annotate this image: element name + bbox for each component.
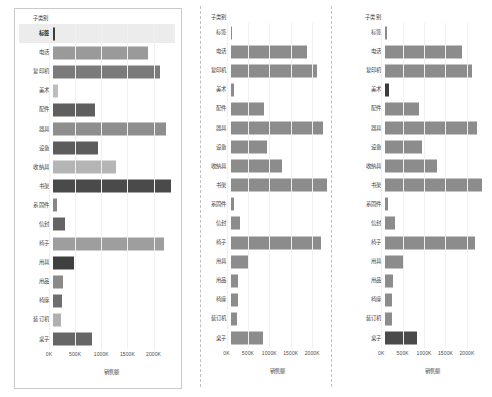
bar[interactable] — [385, 274, 393, 287]
bar-row[interactable]: 配件 — [19, 100, 175, 119]
bar-row[interactable]: 电话 — [351, 42, 484, 61]
bar-row[interactable]: 美术 — [197, 80, 330, 99]
category-label[interactable]: 装订机 — [19, 316, 53, 323]
bar[interactable] — [53, 103, 95, 116]
bar-row[interactable]: 用品 — [197, 271, 330, 290]
bar[interactable] — [53, 199, 57, 212]
category-label[interactable]: 用品 — [351, 277, 385, 284]
bar[interactable] — [231, 236, 321, 249]
bar-row[interactable]: 书架 — [351, 176, 484, 195]
bar[interactable] — [385, 160, 436, 173]
bar-row[interactable]: 收纳具 — [197, 157, 330, 176]
bar-row[interactable]: 椅子 — [197, 233, 330, 252]
bar[interactable] — [385, 236, 475, 249]
bar-row[interactable]: 桌子 — [197, 329, 330, 348]
category-label[interactable]: 电话 — [351, 48, 385, 55]
bar[interactable] — [53, 333, 92, 346]
chart-panel-3[interactable]: 子类别 标签电话复印机美术配件器具设备收纳具书架系固件信封椅子用具用品椅座装订机… — [347, 8, 490, 389]
bar-row[interactable]: 配件 — [351, 99, 484, 118]
bar[interactable] — [385, 217, 394, 230]
bar[interactable] — [231, 141, 268, 154]
category-label[interactable]: 桌子 — [197, 335, 231, 342]
bar-row[interactable]: 电话 — [197, 42, 330, 61]
category-label[interactable]: 复印机 — [197, 67, 231, 74]
category-label[interactable]: 标签 — [19, 30, 53, 37]
bar[interactable] — [231, 102, 265, 115]
category-label[interactable]: 用具 — [19, 259, 53, 266]
chart-panel-2[interactable]: 子类别 标签电话复印机美术配件器具设备收纳具书架系固件信封椅子用具用品椅座装订机… — [193, 8, 336, 389]
chart-panel-1[interactable]: 子类别 标签电话复印机美术配件器具设备收纳具书架系固件信封椅子用具用品椅座装订机… — [14, 8, 182, 389]
bar-row[interactable]: 器具 — [197, 118, 330, 137]
bar[interactable] — [53, 237, 164, 250]
bar-row[interactable]: 设备 — [351, 138, 484, 157]
bar-row[interactable]: 信封 — [351, 214, 484, 233]
category-label[interactable]: 复印机 — [19, 68, 53, 75]
bar[interactable] — [231, 312, 238, 325]
category-label[interactable]: 书架 — [19, 183, 53, 190]
bar[interactable] — [53, 123, 166, 136]
bar-row[interactable]: 用具 — [351, 252, 484, 271]
category-label[interactable]: 配件 — [351, 105, 385, 112]
category-label[interactable]: 用具 — [197, 258, 231, 265]
bar-row[interactable]: 设备 — [19, 139, 175, 158]
bar-row[interactable]: 电话 — [19, 43, 175, 62]
bar[interactable] — [231, 26, 233, 39]
category-label[interactable]: 用具 — [351, 258, 385, 265]
category-label[interactable]: 书架 — [197, 182, 231, 189]
category-label[interactable]: 用品 — [19, 278, 53, 285]
bar[interactable] — [385, 141, 422, 154]
category-label[interactable]: 器具 — [351, 125, 385, 132]
category-label[interactable]: 复印机 — [351, 67, 385, 74]
bar[interactable] — [53, 161, 116, 174]
bar-row[interactable]: 复印机 — [197, 61, 330, 80]
category-label[interactable]: 标签 — [197, 29, 231, 36]
category-label[interactable]: 椅座 — [197, 296, 231, 303]
category-label[interactable]: 系固件 — [197, 201, 231, 208]
category-label[interactable]: 美术 — [351, 86, 385, 93]
bar-row[interactable]: 书架 — [19, 177, 175, 196]
bar-row[interactable]: 系固件 — [351, 195, 484, 214]
bar-row[interactable]: 椅子 — [19, 234, 175, 253]
category-label[interactable]: 椅子 — [351, 239, 385, 246]
bar[interactable] — [231, 45, 308, 58]
bar-row[interactable]: 装订机 — [351, 309, 484, 328]
bar-row[interactable]: 书架 — [197, 176, 330, 195]
bar-row[interactable]: 器具 — [351, 118, 484, 137]
category-label[interactable]: 信封 — [351, 220, 385, 227]
category-label[interactable]: 装订机 — [197, 315, 231, 322]
bar[interactable] — [385, 332, 417, 345]
category-label[interactable]: 信封 — [19, 221, 53, 228]
bar-row[interactable]: 椅座 — [351, 290, 484, 309]
bar-row[interactable]: 美术 — [19, 81, 175, 100]
bar[interactable] — [385, 122, 477, 135]
bar[interactable] — [231, 160, 282, 173]
bar[interactable] — [231, 255, 248, 268]
category-label[interactable]: 桌子 — [351, 335, 385, 342]
category-label[interactable]: 系固件 — [351, 201, 385, 208]
bar-row[interactable]: 标签 — [197, 23, 330, 42]
bar-row[interactable]: 用品 — [351, 271, 484, 290]
bar[interactable] — [231, 332, 263, 345]
bar[interactable] — [231, 83, 235, 96]
category-label[interactable]: 设备 — [197, 144, 231, 151]
bar-row[interactable]: 系固件 — [19, 196, 175, 215]
bar[interactable] — [53, 142, 98, 155]
bar[interactable] — [385, 312, 392, 325]
bar[interactable] — [385, 45, 462, 58]
bar[interactable] — [231, 217, 240, 230]
category-label[interactable]: 信封 — [197, 220, 231, 227]
bar-row[interactable]: 美术 — [351, 80, 484, 99]
category-label[interactable]: 收纳具 — [351, 163, 385, 170]
bar[interactable] — [385, 64, 472, 77]
bar[interactable] — [53, 313, 61, 326]
bar[interactable] — [385, 26, 387, 39]
bar-row[interactable]: 椅座 — [197, 290, 330, 309]
bar[interactable] — [53, 256, 74, 269]
bar-row[interactable]: 配件 — [197, 99, 330, 118]
bar[interactable] — [231, 198, 234, 211]
category-label[interactable]: 电话 — [197, 48, 231, 55]
bar-row[interactable]: 设备 — [197, 138, 330, 157]
bar[interactable] — [385, 198, 388, 211]
bar-row[interactable]: 椅座 — [19, 291, 175, 310]
bar-row[interactable]: 复印机 — [19, 62, 175, 81]
